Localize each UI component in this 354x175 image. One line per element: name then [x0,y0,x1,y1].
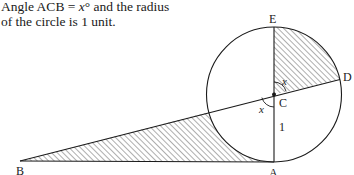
shaded-region-bxa [20,112,274,162]
label-a: A [269,166,278,175]
label-e: E [269,12,276,26]
label-c: C [279,96,287,110]
center-point-c [272,93,276,97]
geometry-diagram: E D C A B x x 1 [0,0,354,175]
label-d: D [343,70,352,84]
label-angle-lower: x [258,103,264,115]
label-b: B [16,164,24,175]
label-radius: 1 [279,120,285,134]
label-angle-upper: x [281,75,287,87]
